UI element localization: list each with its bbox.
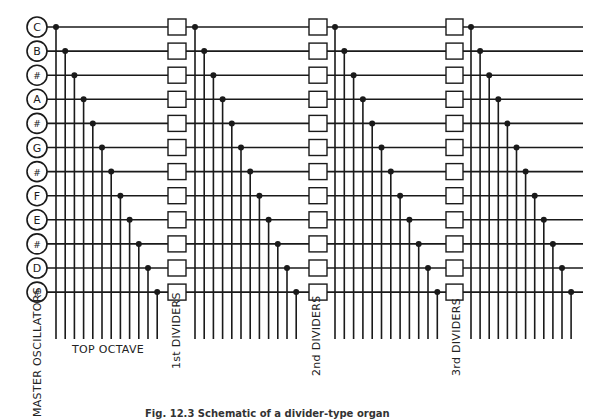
junction-dot [514, 145, 520, 151]
oscillator-note-label: # [33, 71, 41, 81]
divider-box [309, 19, 327, 35]
oscillator-note-label: A [33, 93, 41, 106]
divider-box [168, 236, 186, 252]
divider-box [168, 91, 186, 107]
junction-dot [71, 72, 77, 78]
junction-dot [90, 120, 96, 126]
junction-dot [53, 24, 59, 30]
junction-dot [559, 265, 565, 271]
figure-caption: Fig. 12.3 Schematic of a divider-type or… [145, 408, 390, 419]
junction-dot [504, 120, 510, 126]
divider-box [168, 260, 186, 276]
junction-dot [468, 24, 474, 30]
divider-box [446, 67, 463, 83]
oscillator-note-label: E [34, 214, 41, 227]
junction-dot [210, 72, 216, 78]
oscillator-note-label: # [33, 240, 41, 250]
junction-dot [145, 265, 151, 271]
label-master-oscillators: MASTER OSCILLATORS [31, 287, 44, 417]
divider-box [446, 236, 463, 252]
divider-box [168, 115, 186, 131]
junction-dot [369, 120, 375, 126]
junction-dot [238, 145, 244, 151]
divider-box [309, 91, 327, 107]
divider-box [309, 43, 327, 59]
junction-dot [275, 241, 281, 247]
label-1st-dividers: 1st DIVIDERS [170, 292, 183, 369]
junction-dot [532, 193, 538, 199]
divider-box [168, 19, 186, 35]
junction-dot [477, 48, 483, 54]
junction-dot [406, 217, 412, 223]
divider-box [309, 260, 327, 276]
divider-box [309, 140, 327, 156]
divider-box [446, 19, 463, 35]
junction-dot [284, 265, 290, 271]
junction-dot [416, 241, 422, 247]
divider-box [446, 260, 463, 276]
divider-box [168, 67, 186, 83]
divider-box [309, 115, 327, 131]
divider-box [168, 140, 186, 156]
oscillator-note-label: F [34, 190, 40, 203]
oscillator-note-label: # [33, 168, 41, 178]
divider-box [309, 236, 327, 252]
label-3rd-dividers: 3rd DIVIDERS [450, 298, 463, 376]
divider-box [309, 188, 327, 204]
oscillator-note-label: D [33, 262, 41, 275]
junction-dot [247, 169, 253, 175]
junction-dot [201, 48, 207, 54]
oscillator-note-label: # [33, 119, 41, 129]
junction-dot [136, 241, 142, 247]
divider-box [446, 140, 463, 156]
junction-dot [341, 48, 347, 54]
oscillator-note-label: C [33, 21, 41, 34]
divider-box [309, 212, 327, 228]
divider-box [446, 43, 463, 59]
junction-dot [388, 169, 394, 175]
oscillator-note-label: G [33, 142, 42, 155]
junction-dot [192, 24, 198, 30]
junction-dot [360, 96, 366, 102]
junction-dot [434, 289, 440, 295]
divider-box [309, 164, 327, 180]
junction-dot [486, 72, 492, 78]
junction-dot [351, 72, 357, 78]
divider-box [168, 188, 186, 204]
junction-dot [266, 217, 272, 223]
divider-box [446, 115, 463, 131]
junction-dot [220, 96, 226, 102]
divider-box [168, 212, 186, 228]
junction-dot [550, 241, 556, 247]
junction-dot [117, 193, 123, 199]
junction-dot [568, 289, 574, 295]
junction-dot [108, 169, 114, 175]
junction-dot [293, 289, 299, 295]
label-2nd-dividers: 2nd DIVIDERS [310, 295, 323, 376]
label-top-octave: TOP OCTAVE [72, 343, 144, 356]
divider-box [309, 67, 327, 83]
junction-dot [495, 96, 501, 102]
junction-dot [425, 265, 431, 271]
divider-box [446, 91, 463, 107]
junction-dot [229, 120, 235, 126]
junction-dot [256, 193, 262, 199]
divider-box [446, 164, 463, 180]
junction-dot [523, 169, 529, 175]
junction-dot [81, 96, 87, 102]
divider-box [446, 212, 463, 228]
junction-dot [127, 217, 133, 223]
junction-dot [397, 193, 403, 199]
junction-dot [99, 145, 105, 151]
divider-box [446, 188, 463, 204]
junction-dot [541, 217, 547, 223]
divider-box [168, 164, 186, 180]
junction-dot [62, 48, 68, 54]
junction-dot [154, 289, 160, 295]
divider-box [168, 43, 186, 59]
divider-schematic: CB#A#G#FE#D# [0, 0, 606, 419]
junction-dot [332, 24, 338, 30]
oscillator-note-label: B [33, 45, 41, 58]
junction-dot [379, 145, 385, 151]
